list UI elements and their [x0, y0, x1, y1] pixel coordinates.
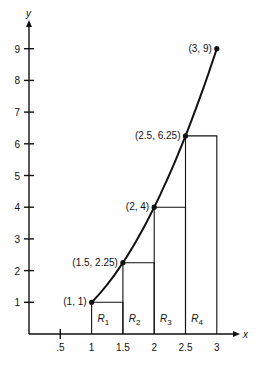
data-point [89, 300, 94, 305]
rectangles: R1R2R3R4 [92, 136, 217, 334]
rectangle-label: R2 [129, 313, 141, 327]
rectangle-label: R4 [191, 313, 203, 327]
data-point [120, 260, 125, 265]
y-axis-arrow-icon [26, 20, 32, 27]
y-axis-label: y [25, 8, 32, 19]
x-axis-label: x [242, 329, 249, 340]
x-tick-label: 3 [214, 342, 220, 353]
points: (1, 1)(1.5, 2.25)(2, 4)(2.5, 6.25)(3, 9) [63, 43, 219, 308]
data-point [214, 46, 219, 51]
x-tick-label: 1.5 [116, 342, 130, 353]
data-point [183, 133, 188, 138]
y-tick-label: 1 [14, 297, 20, 308]
y-tick-label: 9 [14, 44, 20, 55]
x-axis-arrow-icon [233, 331, 240, 337]
rectangle-label: R1 [97, 313, 109, 327]
x-tick-label: .5 [56, 342, 65, 353]
y-tick-label: 5 [14, 171, 20, 182]
point-label: (2, 4) [126, 201, 149, 212]
x-tick-label: 2.5 [179, 342, 193, 353]
x-tick-label: 2 [151, 342, 157, 353]
y-tick-label: 3 [14, 234, 20, 245]
rectangle-label: R3 [160, 313, 172, 327]
point-label: (1, 1) [63, 296, 86, 307]
y-tick-label: 4 [14, 202, 20, 213]
riemann-sum-diagram: yx123456789.511.522.53 R1R2R3R4 (1, 1)(1… [0, 0, 263, 367]
y-tick-label: 8 [14, 75, 20, 86]
x-tick-label: 1 [89, 342, 95, 353]
y-tick-label: 2 [14, 266, 20, 277]
point-label: (3, 9) [188, 43, 211, 54]
point-label: (2.5, 6.25) [135, 130, 181, 141]
rectangle-3 [154, 207, 185, 334]
point-label: (1.5, 2.25) [72, 257, 118, 268]
y-tick-label: 6 [14, 139, 20, 150]
data-point [152, 205, 157, 210]
rectangle-4 [186, 136, 217, 334]
y-tick-label: 7 [14, 107, 20, 118]
